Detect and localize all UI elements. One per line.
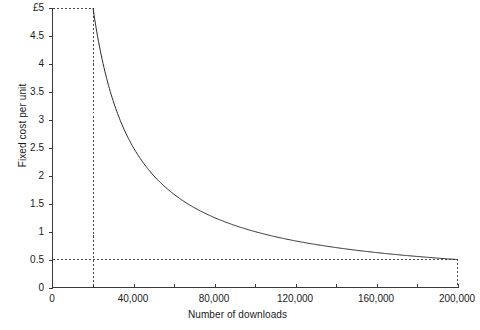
lower-guide-line (53, 260, 458, 288)
upper-guide-line (53, 8, 94, 288)
fixed-cost-curve (93, 8, 458, 260)
x-axis-ticks (94, 284, 459, 288)
y-axis-ticks (49, 9, 53, 289)
